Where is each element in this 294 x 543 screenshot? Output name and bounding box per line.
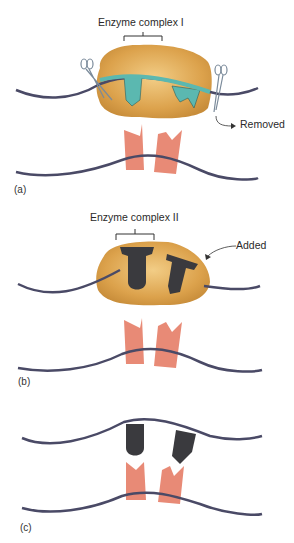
panel-b bbox=[18, 229, 262, 372]
panel-label-c: (c) bbox=[20, 522, 32, 533]
added-annotation: Added bbox=[236, 239, 266, 251]
substrate-a bbox=[124, 124, 144, 170]
removed-annotation: Removed bbox=[240, 118, 285, 130]
panel-c bbox=[22, 419, 262, 515]
scissors-icon bbox=[214, 65, 227, 112]
panel-a bbox=[16, 32, 258, 180]
diagram-canvas bbox=[0, 0, 294, 543]
complex-ii-label: Enzyme complex II bbox=[90, 211, 179, 223]
substrate-b bbox=[124, 318, 144, 364]
complex-i-label: Enzyme complex I bbox=[98, 16, 184, 28]
panel-label-a: (a) bbox=[14, 184, 26, 195]
dark-subunit-2 bbox=[172, 430, 196, 464]
panel-label-b: (b) bbox=[18, 376, 30, 387]
dark-subunit-1 bbox=[126, 424, 144, 456]
